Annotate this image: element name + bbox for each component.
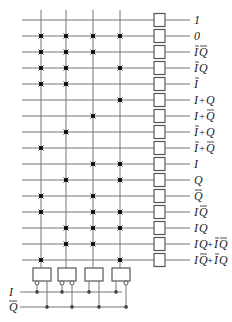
output-label: I+Q: [193, 141, 215, 155]
output-buffer-box: [154, 78, 165, 91]
output-buffer-box: [154, 158, 165, 171]
output-buffer-box: [154, 126, 165, 139]
output-buffer-box: [154, 222, 165, 235]
inversion-bubble-icon: [60, 281, 64, 285]
label-glyph: 1: [194, 13, 200, 27]
output-buffer-box: [154, 94, 165, 107]
output-label: I: [193, 157, 199, 171]
label-glyph: Q: [194, 173, 203, 187]
output-buffer-box: [154, 62, 165, 75]
label-glyph: I: [193, 157, 199, 171]
decoder-gate: [33, 268, 51, 281]
input-label: Q: [9, 300, 18, 314]
output-buffer-box: [154, 46, 165, 59]
label-glyph: 0: [194, 29, 200, 43]
decoder-gate: [112, 268, 130, 281]
label-glyph: Q: [206, 93, 215, 107]
label-glyph: +: [207, 254, 213, 266]
label-glyph: Q: [194, 189, 203, 203]
label-glyph: Q: [206, 125, 215, 139]
label-glyph: Q: [206, 141, 215, 155]
output-label: IQ+IQ: [193, 237, 228, 251]
output-buffer-box: [154, 142, 165, 155]
label-glyph: +: [207, 238, 213, 250]
output-label: Q: [194, 189, 203, 203]
output-buffer-box: [154, 206, 165, 219]
label-glyph: +: [199, 94, 205, 106]
output-buffer-box: [154, 30, 165, 43]
label-glyph: I: [193, 77, 199, 91]
output-label: I: [193, 77, 199, 91]
output-label: IQ: [193, 61, 208, 75]
label-glyph: +: [199, 110, 205, 122]
output-label: Q: [194, 173, 203, 187]
inversion-bubble-icon: [35, 281, 39, 285]
label-glyph: +: [199, 142, 205, 154]
output-buffer-box: [154, 190, 165, 203]
output-label: 1: [194, 13, 200, 27]
label-glyph: Q: [199, 205, 208, 219]
output-buffer-box: [154, 174, 165, 187]
inversion-bubble-icon: [70, 281, 74, 285]
output-label: I+Q: [193, 109, 215, 123]
output-label: IQ: [193, 205, 208, 219]
label-glyph: Q: [199, 61, 208, 75]
diagram-canvas: 10IQIQII+QI+QI+QI+QIQQIQIQIQ+IQIQ+IQIQ: [0, 0, 232, 322]
decoder-gate: [85, 268, 103, 281]
label-glyph: Q: [219, 253, 228, 267]
inversion-bubble-icon: [124, 281, 128, 285]
output-buffer-box: [154, 14, 165, 27]
output-label: IQ: [193, 45, 208, 59]
input-label: I: [8, 285, 14, 299]
label-glyph: Q: [206, 109, 215, 123]
output-buffer-box: [154, 110, 165, 123]
crosspoint-diagram: 10IQIQII+QI+QI+QI+QIQQIQIQIQ+IQIQ+IQIQ: [0, 0, 232, 322]
output-label: I+Q: [193, 93, 215, 107]
output-label: IQ+IQ: [193, 253, 228, 267]
decoder-gate: [58, 268, 76, 281]
label-glyph: Q: [199, 221, 208, 235]
label-glyph: +: [199, 126, 205, 138]
output-buffer-box: [154, 254, 165, 267]
output-label: IQ: [193, 221, 208, 235]
output-label: I+Q: [193, 125, 215, 139]
output-label: 0: [194, 29, 200, 43]
label-glyph: Q: [199, 45, 208, 59]
output-buffer-box: [154, 238, 165, 251]
label-glyph: Q: [219, 237, 228, 251]
